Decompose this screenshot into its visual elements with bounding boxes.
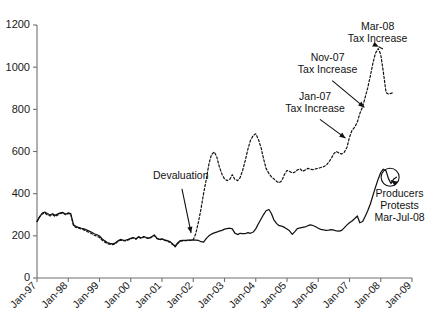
x-tick-label-Jan-97: Jan-97: [7, 279, 38, 310]
annotation-label-mar08-tax-line1: Mar-08: [361, 20, 394, 32]
annotation-devaluation: Devaluation: [153, 169, 209, 233]
annotation-arrow-devaluation: [182, 189, 191, 233]
data-series-group: [37, 49, 396, 247]
x-tick-label-Jan-99: Jan-99: [70, 279, 101, 310]
x-axis: Jan-97Jan-98Jan-99Jan-00Jan-01Jan-02Jan-…: [7, 278, 413, 310]
x-tick-label-Jan-00: Jan-00: [101, 279, 132, 310]
x-axis-tick-labels: Jan-97Jan-98Jan-99Jan-00Jan-01Jan-02Jan-…: [7, 279, 413, 310]
annotation-mar08-tax: Mar-08Tax Increase: [348, 20, 408, 49]
annotation-label-nov07-tax-line1: Nov-07: [311, 51, 345, 63]
series-line-domestic-price-solid: [37, 169, 396, 246]
x-tick-label-Jan-98: Jan-98: [38, 279, 69, 310]
annotation-label-jan07-tax-line2: Tax Increase: [285, 102, 345, 114]
annotation-label-jan07-tax-line1: Jan-07: [299, 90, 331, 102]
x-tick-label-Jan-03: Jan-03: [195, 279, 226, 310]
annotation-arrowhead-jan07-tax: [339, 132, 345, 138]
line-chart: 020040060080010001200 Jan-97Jan-98Jan-99…: [0, 0, 436, 326]
x-tick-label-Jan-02: Jan-02: [163, 279, 194, 310]
annotation-label-mar08-tax-line2: Tax Increase: [348, 32, 408, 44]
y-tick-label-1000: 1000: [6, 61, 30, 73]
chart-container: 020040060080010001200 Jan-97Jan-98Jan-99…: [0, 0, 436, 326]
annotation-label-producers-protests-line2: Protests: [380, 199, 419, 211]
x-tick-label-Jan-05: Jan-05: [257, 279, 288, 310]
annotations-group: DevaluationJan-07Tax IncreaseNov-07Tax I…: [153, 20, 425, 233]
y-tick-label-1200: 1200: [6, 18, 30, 30]
annotation-label-nov07-tax-line2: Tax Increase: [298, 63, 358, 75]
annotation-arrow-mar08-tax: [379, 47, 383, 49]
y-axis-ticks: [33, 25, 37, 278]
y-axis: 020040060080010001200: [6, 18, 37, 283]
y-tick-label-800: 800: [12, 103, 30, 115]
annotation-label-producers-protests-line3: Mar-Jul-08: [374, 211, 424, 223]
x-tick-label-Jan-01: Jan-01: [132, 279, 163, 310]
x-tick-label-Jan-07: Jan-07: [320, 279, 351, 310]
y-tick-label-600: 600: [12, 145, 30, 157]
y-axis-tick-labels: 020040060080010001200: [6, 18, 30, 283]
x-tick-label-Jan-04: Jan-04: [226, 279, 257, 310]
annotation-label-devaluation-line1: Devaluation: [153, 169, 209, 181]
annotation-producers-protests: ProducersProtestsMar-Jul-08: [374, 181, 424, 223]
x-tick-label-Jan-08: Jan-08: [351, 279, 382, 310]
annotation-jan07-tax: Jan-07Tax Increase: [285, 90, 345, 138]
y-tick-label-200: 200: [12, 229, 30, 241]
x-tick-label-Jan-06: Jan-06: [288, 279, 319, 310]
series-line-export-price-dashed: [37, 49, 394, 247]
y-tick-label-400: 400: [12, 187, 30, 199]
annotation-label-producers-protests-line1: Producers: [376, 187, 424, 199]
x-tick-label-Jan-09: Jan-09: [382, 279, 413, 310]
annotation-arrowhead-devaluation: [187, 226, 192, 232]
